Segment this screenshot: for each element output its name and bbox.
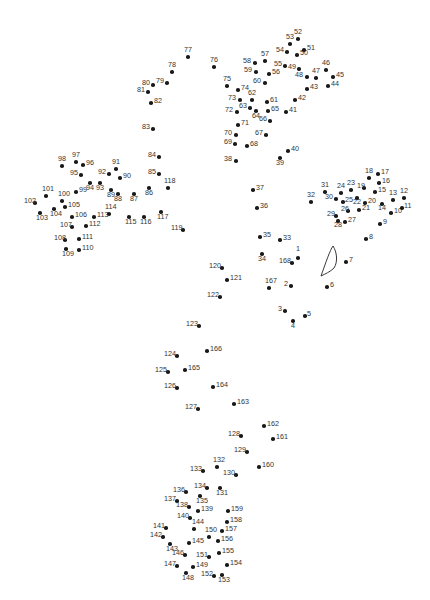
dot-number-label: 16 bbox=[382, 177, 390, 184]
dot-number-label: 168 bbox=[279, 257, 291, 264]
dot-number-label: 106 bbox=[75, 211, 87, 218]
dot-number-label: 9 bbox=[383, 218, 387, 225]
dot-number-label: 103 bbox=[36, 214, 48, 221]
dot-number-label: 2 bbox=[284, 280, 288, 287]
dot-number-label: 99 bbox=[79, 186, 87, 193]
dot-number-label: 89 bbox=[107, 191, 115, 198]
puzzle-dot bbox=[165, 81, 169, 85]
dot-number-label: 34 bbox=[258, 255, 266, 262]
puzzle-dot bbox=[107, 172, 111, 176]
dot-number-label: 60 bbox=[253, 77, 261, 84]
dot-number-label: 26 bbox=[341, 205, 349, 212]
dot-number-label: 44 bbox=[331, 80, 339, 87]
dot-number-label: 1 bbox=[296, 245, 300, 252]
puzzle-dot bbox=[215, 465, 219, 469]
puzzle-dot bbox=[251, 188, 255, 192]
puzzle-dot bbox=[268, 119, 272, 123]
dot-number-label: 107 bbox=[60, 221, 72, 228]
puzzle-dot bbox=[60, 164, 64, 168]
dot-number-label: 14 bbox=[378, 204, 386, 211]
dot-number-label: 40 bbox=[291, 145, 299, 152]
dot-number-label: 130 bbox=[223, 469, 235, 476]
dot-number-label: 87 bbox=[130, 195, 138, 202]
puzzle-dot bbox=[157, 155, 161, 159]
dot-number-label: 8 bbox=[369, 233, 373, 240]
puzzle-dot bbox=[278, 238, 282, 242]
dot-number-label: 51 bbox=[307, 44, 315, 51]
puzzle-dot bbox=[151, 127, 155, 131]
puzzle-dot bbox=[211, 385, 215, 389]
puzzle-dot bbox=[170, 70, 174, 74]
puzzle-dot bbox=[283, 309, 287, 313]
puzzle-dot bbox=[192, 527, 196, 531]
dot-number-label: 6 bbox=[330, 281, 334, 288]
puzzle-dot bbox=[285, 50, 289, 54]
dot-number-label: 67 bbox=[255, 129, 263, 136]
puzzle-dot bbox=[264, 133, 268, 137]
puzzle-dot bbox=[357, 208, 361, 212]
puzzle-dot bbox=[314, 76, 318, 80]
dot-number-label: 150 bbox=[205, 526, 217, 533]
dot-number-label: 165 bbox=[188, 364, 200, 371]
puzzle-dot bbox=[263, 59, 267, 63]
puzzle-dot bbox=[234, 133, 238, 137]
puzzle-dot bbox=[187, 541, 191, 545]
leaf-outline-icon bbox=[0, 0, 430, 600]
dot-number-label: 79 bbox=[156, 77, 164, 84]
puzzle-dot bbox=[323, 190, 327, 194]
puzzle-dot bbox=[216, 539, 220, 543]
dot-number-label: 94 bbox=[86, 184, 94, 191]
dot-number-label: 116 bbox=[140, 218, 151, 225]
dot-number-label: 52 bbox=[294, 28, 302, 35]
puzzle-dot bbox=[114, 167, 118, 171]
dot-number-label: 95 bbox=[70, 169, 78, 176]
puzzle-dot bbox=[149, 101, 153, 105]
puzzle-dot bbox=[293, 98, 297, 102]
puzzle-dot bbox=[265, 100, 269, 104]
dot-number-label: 46 bbox=[322, 59, 330, 66]
dot-number-label: 92 bbox=[98, 168, 106, 175]
dot-number-label: 78 bbox=[168, 61, 176, 68]
puzzle-dot bbox=[373, 190, 377, 194]
dot-number-label: 36 bbox=[260, 202, 268, 209]
dot-number-label: 4 bbox=[291, 322, 295, 329]
dot-number-label: 30 bbox=[325, 193, 333, 200]
puzzle-dot bbox=[166, 186, 170, 190]
dot-to-dot-puzzle: 1234567891011121314151617181920212223242… bbox=[0, 0, 430, 600]
puzzle-dot bbox=[233, 142, 237, 146]
puzzle-dot bbox=[343, 220, 347, 224]
puzzle-dot bbox=[295, 53, 299, 57]
dot-number-label: 120 bbox=[209, 262, 221, 269]
puzzle-dot bbox=[225, 278, 229, 282]
dot-number-label: 66 bbox=[259, 115, 267, 122]
puzzle-dot bbox=[284, 110, 288, 114]
puzzle-dot bbox=[146, 90, 150, 94]
dot-number-label: 110 bbox=[82, 244, 93, 251]
dot-number-label: 109 bbox=[62, 250, 74, 257]
dot-number-label: 146 bbox=[172, 549, 184, 556]
puzzle-dot bbox=[296, 256, 300, 260]
dot-number-label: 90 bbox=[123, 172, 131, 179]
puzzle-dot bbox=[376, 172, 380, 176]
puzzle-dot bbox=[205, 349, 209, 353]
dot-number-label: 114 bbox=[105, 203, 116, 210]
dot-number-label: 73 bbox=[228, 94, 236, 101]
dot-number-label: 48 bbox=[295, 71, 303, 78]
dot-number-label: 160 bbox=[262, 461, 274, 468]
dot-number-label: 76 bbox=[210, 56, 218, 63]
puzzle-dot bbox=[84, 224, 88, 228]
dot-number-label: 138 bbox=[176, 501, 188, 508]
puzzle-dot bbox=[225, 520, 229, 524]
dot-number-label: 61 bbox=[270, 96, 278, 103]
dot-number-label: 128 bbox=[228, 430, 240, 437]
dot-number-label: 162 bbox=[267, 420, 279, 427]
puzzle-dot bbox=[364, 237, 368, 241]
dot-number-label: 59 bbox=[244, 66, 252, 73]
dot-number-label: 167 bbox=[265, 277, 277, 284]
dot-number-label: 105 bbox=[68, 201, 80, 208]
dot-number-label: 142 bbox=[150, 531, 162, 538]
dot-number-label: 121 bbox=[230, 274, 242, 281]
puzzle-dot bbox=[79, 173, 83, 177]
dot-number-label: 161 bbox=[276, 433, 288, 440]
dot-number-label: 153 bbox=[218, 576, 230, 583]
